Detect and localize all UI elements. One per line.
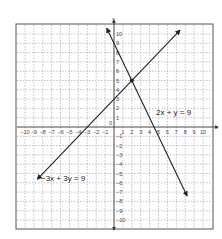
x-tick-label: 7 [175,129,178,135]
origin-label: 0 [109,120,112,126]
y-tick-label: −7 [116,189,122,195]
y-tick-label: 6 [116,68,119,74]
x-tick-label: 6 [166,129,169,135]
x-tick-label: 9 [193,129,196,135]
y-tick-label: −2 [116,143,122,149]
x-tick-label: 3 [139,129,142,135]
x-tick-label: −9 [31,129,37,135]
y-tick-label: 5 [116,78,119,84]
y-tick-label: −3 [116,152,122,158]
equation-label-neg3x-plus-3y: −3x + 3y = 9 [41,174,86,183]
y-tick-label: −8 [116,198,122,204]
y-tick-label: −6 [116,180,122,186]
x-tick-label: 8 [184,129,187,135]
intersection-point [130,79,134,83]
x-tick-label: −2 [93,129,99,135]
y-tick-label: 4 [116,87,119,93]
y-tick-label: 7 [116,59,119,65]
x-tick-label: 4 [148,129,151,135]
x-tick-label: −10 [20,129,29,135]
y-tick-label: −10 [116,217,125,223]
y-tick-label: −9 [116,208,122,214]
y-tick-label: −1 [116,133,122,139]
x-tick-label: 10 [200,129,206,135]
x-axis-label: x [214,124,218,130]
intersection-points [130,79,134,83]
y-tick-label: −4 [116,161,122,167]
x-tick-label: −7 [49,129,55,135]
x-tick-label: 2 [130,129,133,135]
x-tick-label: −6 [57,129,63,135]
y-tick-label: 9 [116,40,119,46]
equation-label-2x-plus-y: 2x + y = 9 [156,108,192,117]
x-tick-label: −1 [102,129,108,135]
x-tick-label: −5 [66,129,72,135]
coordinate-plane-chart: −10−9−8−7−6−5−4−3−2−112345678910−10−9−8−… [0,0,222,239]
y-tick-label: 2 [116,105,119,111]
plot-frame [16,24,213,229]
x-tick-label: −8 [40,129,46,135]
y-axis-label: y [111,16,115,22]
y-tick-label: 1 [116,115,119,121]
y-tick-label: −5 [116,171,122,177]
y-tick-label: 10 [116,31,122,37]
